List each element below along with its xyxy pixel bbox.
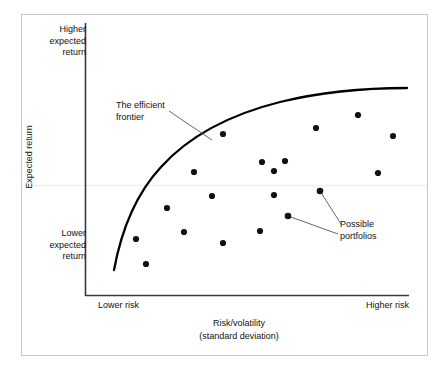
y-axis-title: Expected return bbox=[24, 102, 34, 212]
scatter-point-annotated bbox=[317, 188, 324, 195]
scatter-point bbox=[220, 131, 226, 137]
scatter-point bbox=[313, 125, 319, 131]
scatter-point bbox=[191, 169, 197, 175]
portfolios-leader-line-lower bbox=[288, 216, 338, 234]
portfolios-leader-line-upper bbox=[320, 191, 341, 224]
scatter-point bbox=[390, 133, 396, 139]
scatter-point bbox=[209, 193, 215, 199]
scatter-points bbox=[133, 112, 396, 267]
x-axis-title: Risk/volatility (standard deviation) bbox=[144, 317, 334, 342]
efficient-frontier-figure: Higher expected return Lower expected re… bbox=[0, 0, 448, 370]
scatter-point bbox=[259, 159, 265, 165]
scatter-point bbox=[271, 168, 277, 174]
y-axis-top-label: Higher expected return bbox=[34, 24, 86, 59]
scatter-point bbox=[133, 236, 139, 242]
scatter-point-annotated bbox=[285, 213, 292, 220]
x-axis-left-label: Lower risk bbox=[98, 300, 139, 312]
annotation-possible-portfolios: Possible portfolios bbox=[340, 218, 430, 242]
annotation-efficient-frontier: The efficient frontier bbox=[116, 99, 206, 123]
scatter-point bbox=[164, 205, 170, 211]
scatter-point bbox=[143, 261, 149, 267]
scatter-point bbox=[181, 229, 187, 235]
y-axis-bottom-label: Lower expected return bbox=[34, 228, 86, 263]
scatter-point bbox=[257, 228, 263, 234]
scatter-point bbox=[220, 240, 226, 246]
scatter-point bbox=[355, 112, 361, 118]
scatter-point bbox=[282, 158, 288, 164]
scatter-point bbox=[375, 170, 381, 176]
x-axis-right-label: Higher risk bbox=[366, 300, 409, 312]
scatter-point bbox=[271, 192, 277, 198]
